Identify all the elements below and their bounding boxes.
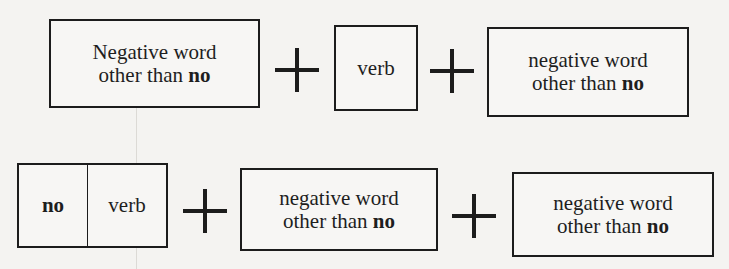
negative-word-box: Negative word other than no (49, 19, 260, 108)
box-line-1: Negative word (92, 40, 216, 64)
box-line-2-prefix: other than (99, 63, 189, 87)
no-cell: no (19, 165, 88, 246)
plus-icon (452, 194, 496, 238)
box-line-2-bold: no (373, 209, 395, 233)
box-line-2-prefix: other than (557, 214, 647, 238)
box-line-1: negative word (528, 48, 648, 72)
box-line-2-prefix: other than (283, 209, 373, 233)
verb-label: verb (357, 57, 394, 80)
verb-cell: verb (88, 165, 166, 246)
plus-icon (275, 48, 319, 92)
box-line-2-bold: no (647, 214, 669, 238)
box-line-1: negative word (553, 191, 673, 215)
negative-word-box: negative word other than no (240, 168, 438, 251)
box-line-2-bold: no (188, 63, 210, 87)
box-line-2-bold: no (622, 71, 644, 95)
plus-icon (183, 189, 227, 233)
plus-icon (430, 49, 474, 93)
no-verb-box: no verb (17, 163, 168, 248)
box-line-1: negative word (279, 186, 399, 210)
verb-box: verb (334, 25, 418, 111)
negative-word-box: negative word other than no (487, 27, 689, 117)
box-line-2-prefix: other than (532, 71, 622, 95)
negative-word-box: negative word other than no (512, 172, 714, 257)
